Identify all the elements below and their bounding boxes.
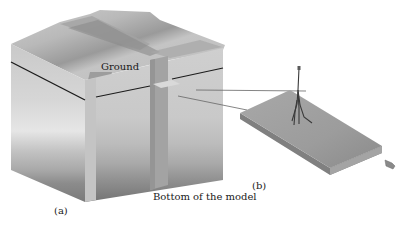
ground-label: Ground: [101, 62, 139, 72]
panel-b-label: (b): [252, 181, 266, 191]
bottom-of-model-label: Bottom of the model: [153, 192, 257, 202]
panel-a-label: (a): [54, 206, 68, 216]
slab-model: [240, 90, 382, 175]
geological-model-figure: Ground Bottom of the model (a) (b): [0, 0, 406, 231]
wellhead-marker: [298, 66, 301, 70]
direction-arrow-icon: [385, 160, 395, 169]
